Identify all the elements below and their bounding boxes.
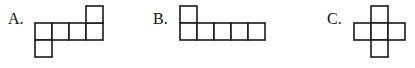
option-a-net <box>35 6 103 57</box>
option-b-net <box>180 6 265 40</box>
net-square <box>180 6 197 23</box>
net-square <box>371 23 388 40</box>
option-c-net <box>354 6 405 57</box>
net-square <box>86 23 103 40</box>
net-square <box>371 40 388 57</box>
net-square <box>388 23 405 40</box>
net-square <box>180 23 197 40</box>
net-square <box>69 23 86 40</box>
net-square <box>197 23 214 40</box>
net-square <box>371 6 388 23</box>
net-square <box>214 23 231 40</box>
cube-nets-diagram <box>0 0 415 68</box>
net-square <box>231 23 248 40</box>
net-square <box>354 23 371 40</box>
net-square <box>248 23 265 40</box>
net-square <box>52 23 69 40</box>
net-square <box>35 40 52 57</box>
net-square <box>86 6 103 23</box>
net-square <box>35 23 52 40</box>
